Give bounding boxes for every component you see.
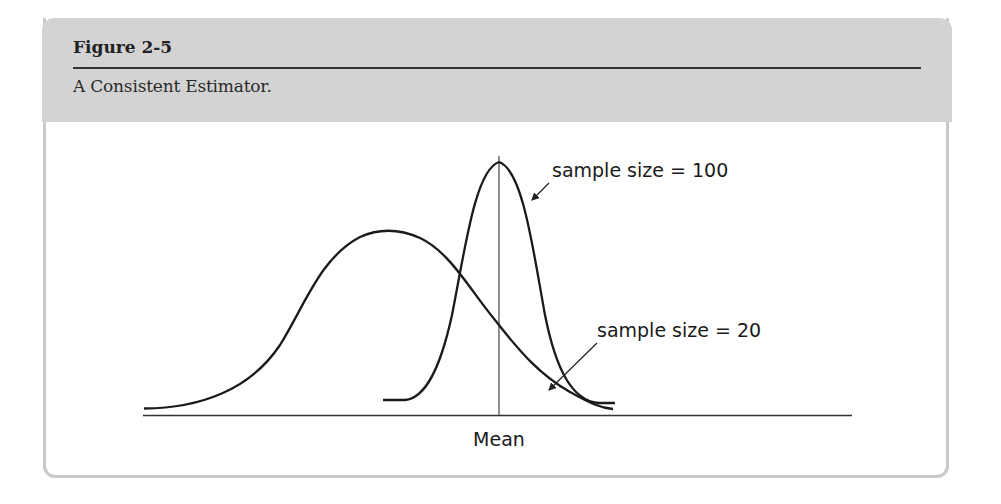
chart-area: sample size = 100 sample size = 20 Mean <box>0 0 1001 504</box>
arrow-sample-20 <box>549 343 597 390</box>
arrow-sample-100 <box>532 183 549 200</box>
label-sample-100: sample size = 100 <box>552 159 728 181</box>
curve-sample-20 <box>144 231 613 409</box>
label-mean: Mean <box>473 428 525 450</box>
label-sample-20: sample size = 20 <box>597 319 761 341</box>
